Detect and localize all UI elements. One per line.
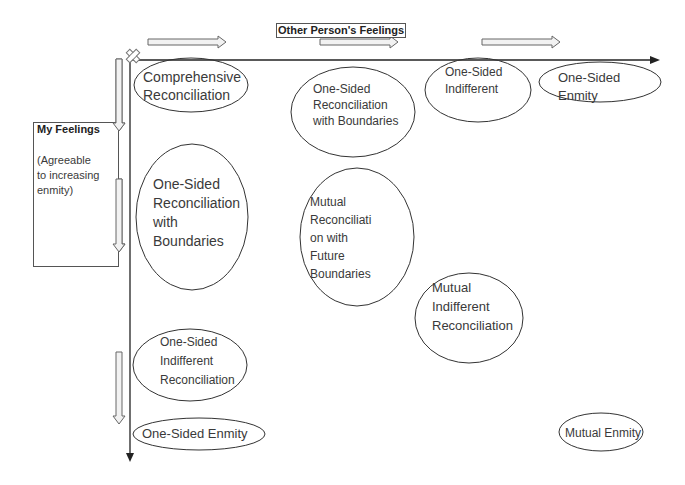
down-arrow-icon [113, 179, 125, 252]
node-one-sided-enmity-top: One-SidedEnmity [558, 69, 620, 105]
node-mutual-reconciliation-future-boundaries: MutualReconciliation withFutureBoundarie… [310, 193, 371, 283]
node-one-sided-indifferent-reconciliation: One-SidedIndifferentReconciliation [160, 333, 235, 390]
down-arrow-icon [113, 59, 125, 131]
node-one-sided-enmity-bottom: One-Sided Enmity [142, 426, 248, 442]
node-one-sided-reconciliation-boundaries-top: One-SidedReconciliationwith Boundaries [313, 81, 398, 129]
node-comprehensive-reconciliation: ComprehensiveReconciliation [143, 68, 241, 104]
node-mutual-enmity: Mutual Enmity [565, 425, 641, 441]
node-one-sided-reconciliation-boundaries-left: One-SidedReconciliationwithBoundaries [153, 175, 240, 251]
node-mutual-indifferent-reconciliation: MutualIndifferentReconciliation [432, 278, 513, 335]
node-one-sided-indifferent-top: One-SidedIndifferent [445, 64, 502, 98]
